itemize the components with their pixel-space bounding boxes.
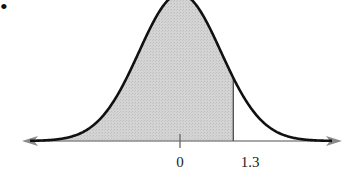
tick-label-0: 0: [176, 154, 184, 170]
tick-label-1-3: 1.3: [241, 154, 260, 170]
normal-curve-chart: 0 1.3: [0, 0, 345, 179]
